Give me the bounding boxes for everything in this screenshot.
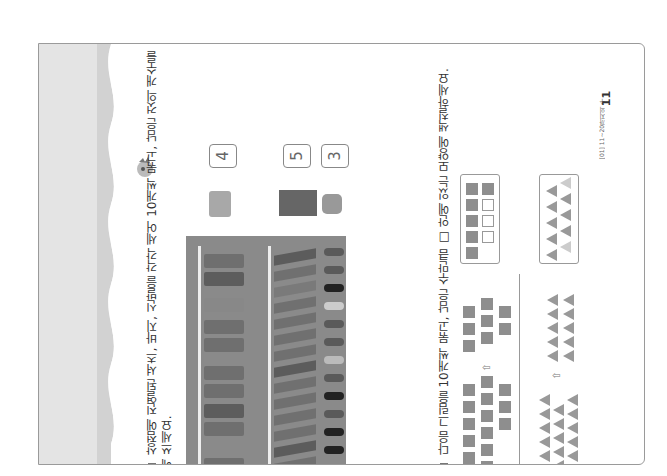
- shoes-icon: [322, 194, 342, 214]
- answer-box-shoes[interactable]: 3: [321, 144, 349, 168]
- workbook-page: 상점에 진열된 셔츠, 바지, 신발을 각각 세어 10개씩 묶고, 남은 것의…: [38, 43, 645, 465]
- pants-rail: [268, 246, 271, 465]
- answer-box-pants[interactable]: 5: [283, 144, 311, 168]
- shirt-icon: [209, 191, 231, 217]
- wave-decoration: [97, 44, 121, 464]
- triangles-answer-box[interactable]: [539, 174, 579, 264]
- section-divider: [519, 274, 520, 464]
- square-bullet-icon: [148, 463, 156, 465]
- page-number: 11: [600, 91, 613, 106]
- problem1-instruction-cont: 에 쓰세요.: [160, 344, 174, 465]
- arrow-up-icon: ⇧: [551, 371, 562, 379]
- squares-answer-box[interactable]: [460, 174, 500, 264]
- pants-icon: [279, 190, 317, 216]
- arrow-up-icon: ⇧: [481, 363, 492, 371]
- answer-box-shirt[interactable]: 4: [209, 144, 237, 168]
- problem1-instruction: 상점에 진열된 셔츠, 바지, 신발을 각각 세어 10개씩 묶고, 남은 것의…: [145, 111, 159, 465]
- shirt-rail: [198, 246, 201, 465]
- problem2-instruction: 다음 그림을 10개씩 묶고, 남은 수만큼 □ 안에 있는 모양에 색칠하세요…: [437, 111, 451, 465]
- square-bullet-icon: [440, 463, 448, 465]
- store-rack-photo: [186, 236, 346, 465]
- chapter-footer: [01] 11~20까지의 수: [597, 99, 606, 159]
